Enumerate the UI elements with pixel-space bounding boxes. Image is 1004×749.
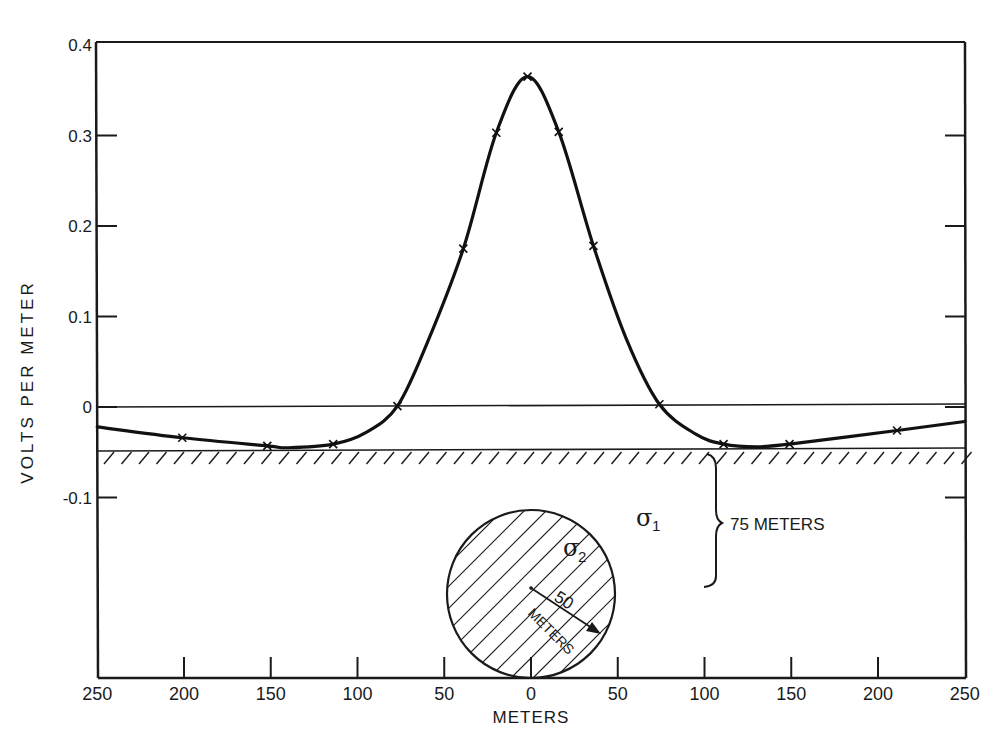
x-tick-label: 200 [863, 684, 893, 704]
x-tick-label: 200 [169, 684, 199, 704]
y-tick-label: 0.3 [68, 127, 92, 146]
x-tick-label: 150 [256, 684, 286, 704]
x-axis-ticks [184, 657, 878, 678]
y-tick-label: 0 [83, 398, 92, 417]
x-tick-label: 50 [434, 684, 454, 704]
svg-text:σ: σ [563, 534, 579, 562]
zero-line [97, 404, 965, 407]
field-curve [97, 77, 965, 448]
depth-brace [704, 454, 722, 587]
y-tick-labels: 0.40.30.20.10-0.1 [63, 36, 92, 508]
chart: 0.40.30.20.10-0.1 2502001501005005010015… [0, 0, 1004, 749]
svg-text:2: 2 [578, 548, 586, 565]
y-tick-label: 0.4 [68, 36, 92, 55]
y-tick-label: -0.1 [63, 489, 92, 508]
svg-text:σ: σ [636, 504, 652, 532]
sigma1-label: σ 1 [636, 504, 660, 534]
y-tick-label: 0.1 [68, 308, 92, 327]
plot-frame [96, 42, 966, 678]
x-tick-label: 50 [608, 684, 628, 704]
x-axis-title: METERS [493, 708, 570, 727]
ground-surface [97, 448, 972, 464]
depth-label: 75 METERS [730, 515, 824, 534]
svg-text:1: 1 [652, 517, 660, 534]
x-tick-label: 100 [689, 684, 719, 704]
x-tick-label: 100 [342, 684, 372, 704]
arrowhead-icon [586, 622, 601, 634]
y-tick-label: 0.2 [68, 217, 92, 236]
radius-value: 50 [551, 587, 577, 613]
y-axis-title: VOLTS PER METER [18, 280, 37, 483]
x-tick-label: 250 [950, 684, 980, 704]
sigma2-label: σ 2 [563, 534, 586, 565]
x-tick-label: 250 [82, 684, 112, 704]
x-tick-label: 150 [776, 684, 806, 704]
data-markers [178, 73, 901, 450]
x-tick-labels: 25020015010050050100150200250 [82, 684, 980, 704]
x-tick-label: 0 [526, 684, 536, 704]
